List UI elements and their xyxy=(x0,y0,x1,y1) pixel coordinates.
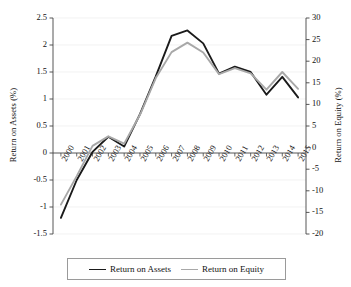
plot-area xyxy=(0,0,351,287)
legend-swatch-line-icon xyxy=(89,269,106,270)
chart-legend: Return on AssetsReturn on Equity xyxy=(67,258,286,280)
chart-container: Return on Assets (%) Return on Equity (%… xyxy=(0,0,351,287)
legend-item: Return on Assets xyxy=(89,264,171,274)
legend-item: Return on Equity xyxy=(181,264,264,274)
series-line-return-on-assets xyxy=(61,30,298,217)
legend-label: Return on Assets xyxy=(110,264,171,274)
legend-label: Return on Equity xyxy=(202,264,264,274)
legend-swatch-line-icon xyxy=(181,269,198,270)
